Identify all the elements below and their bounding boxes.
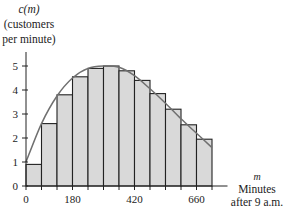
x-axis-label-line3: after 9 a.m. — [228, 196, 286, 209]
histogram-bar — [57, 95, 73, 186]
x-axis-label-line2: Minutes — [228, 183, 286, 196]
y-tick-label: 2 — [13, 132, 19, 144]
x-axis-label: m Minutes after 9 a.m. — [228, 170, 286, 209]
y-tick-label: 4 — [13, 84, 19, 96]
y-tick-label: 1 — [13, 156, 19, 168]
y-tick-label: 5 — [13, 60, 19, 72]
histogram-bar — [181, 125, 197, 186]
histogram-bar — [26, 164, 42, 186]
histogram-bar — [42, 124, 58, 186]
histogram-bar — [119, 71, 135, 186]
y-tick-label: 0 — [13, 180, 19, 192]
histogram-bar — [88, 68, 104, 186]
histogram-bar — [135, 80, 151, 186]
histogram-bar — [73, 77, 89, 186]
histogram-bar — [104, 66, 120, 186]
histogram-bar — [150, 94, 166, 186]
x-tick-label: 0 — [23, 193, 29, 205]
x-tick-label: 180 — [64, 193, 81, 205]
y-tick-label: 3 — [13, 108, 19, 120]
histogram-bar — [166, 109, 182, 186]
x-axis-symbol: m — [228, 170, 286, 183]
x-tick-label: 660 — [188, 193, 205, 205]
x-tick-label: 420 — [126, 193, 143, 205]
